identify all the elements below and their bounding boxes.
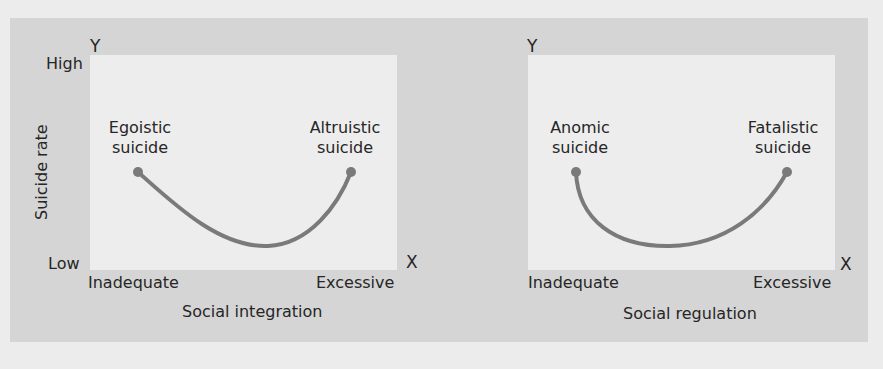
left-y-high: High [46,56,83,72]
right-x-letter: X [840,256,852,273]
right-x-high: Excessive [753,275,831,291]
left-end-dot [346,167,356,177]
egoistic-line1: Egoistic [100,120,180,136]
right-start-dot [571,167,581,177]
fatalistic-line1: Fatalistic [738,120,828,136]
anomic-line1: Anomic [540,120,620,136]
right-x-low: Inadequate [528,275,619,291]
egoistic-suicide-label: Egoistic suicide [100,120,180,156]
right-u-curve [576,172,787,246]
left-y-low: Low [48,256,80,272]
left-start-dot [133,167,143,177]
right-end-dot [782,167,792,177]
left-x-letter: X [406,254,418,271]
fatalistic-line2: suicide [738,140,828,156]
egoistic-line2: suicide [100,140,180,156]
altruistic-line2: suicide [300,140,390,156]
right-x-axis-label: Social regulation [623,306,757,322]
left-y-letter: Y [90,38,100,55]
right-y-letter: Y [527,38,537,55]
left-u-curve [138,172,351,246]
altruistic-line1: Altruistic [300,120,390,136]
left-x-high: Excessive [316,275,394,291]
anomic-line2: suicide [540,140,620,156]
fatalistic-suicide-label: Fatalistic suicide [738,120,828,156]
left-x-axis-label: Social integration [182,304,322,320]
altruistic-suicide-label: Altruistic suicide [300,120,390,156]
left-x-low: Inadequate [88,275,179,291]
left-y-axis-label: Suicide rate [32,124,51,220]
anomic-suicide-label: Anomic suicide [540,120,620,156]
